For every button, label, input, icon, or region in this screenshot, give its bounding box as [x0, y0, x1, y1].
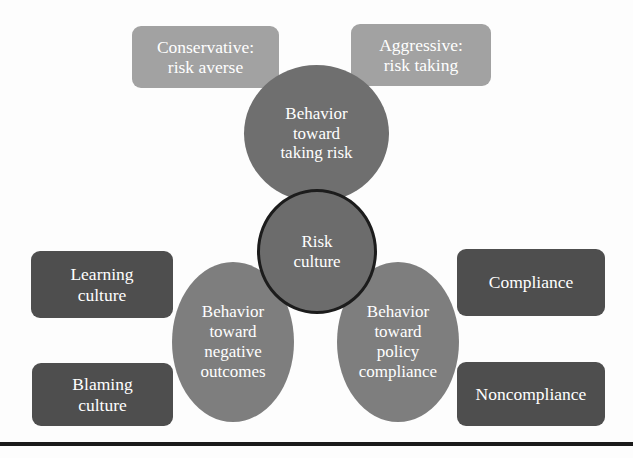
- endpoint-conservative-risk-averse: Conservative: risk averse: [132, 26, 279, 88]
- endpoint-aggressive-risk-taking: Aggressive: risk taking: [351, 24, 491, 86]
- dimension-behavior-toward-taking-risk: Behavior toward taking risk: [244, 65, 389, 202]
- endpoint-blaming-culture-label: Blaming culture: [72, 374, 132, 415]
- endpoint-conservative-label: Conservative: risk averse: [157, 37, 254, 78]
- core-risk-culture-label: Risk culture: [293, 232, 340, 272]
- core-risk-culture: Risk culture: [257, 189, 377, 314]
- endpoint-aggressive-label: Aggressive: risk taking: [379, 35, 463, 76]
- endpoint-learning-culture-label: Learning culture: [70, 264, 133, 305]
- diagram-canvas: Conservative: risk averse Aggressive: ri…: [0, 0, 633, 458]
- endpoint-compliance-label: Compliance: [489, 272, 574, 292]
- endpoint-noncompliance: Noncompliance: [457, 362, 605, 426]
- dimension-negative-outcomes-label: Behavior toward negative outcomes: [200, 302, 265, 382]
- endpoint-learning-culture: Learning culture: [31, 251, 173, 318]
- endpoint-blaming-culture: Blaming culture: [32, 363, 173, 426]
- endpoint-compliance: Compliance: [457, 249, 605, 316]
- endpoint-noncompliance-label: Noncompliance: [476, 384, 587, 404]
- bottom-divider-rule: [0, 442, 633, 446]
- dimension-taking-risk-label: Behavior toward taking risk: [280, 104, 352, 164]
- dimension-policy-compliance-label: Behavior toward policy compliance: [359, 302, 437, 382]
